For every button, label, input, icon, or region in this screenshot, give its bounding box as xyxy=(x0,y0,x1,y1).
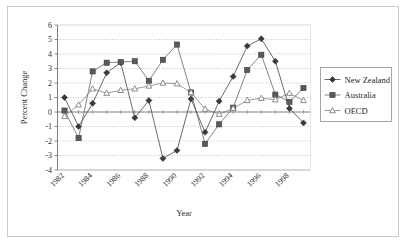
legend-label: New Zealand xyxy=(345,75,391,85)
chart-legend: New ZealandAustraliaOECD xyxy=(321,68,392,122)
y-tick-label: 4 xyxy=(48,50,52,59)
legend-label: Australia xyxy=(345,90,376,100)
data-point-marker xyxy=(160,155,166,161)
data-point-marker xyxy=(272,58,278,64)
data-point-marker xyxy=(217,122,222,127)
series-australia xyxy=(62,42,306,147)
data-point-marker xyxy=(259,52,264,57)
data-point-marker xyxy=(245,67,250,72)
data-point-marker xyxy=(104,60,109,65)
y-tick-label: 6 xyxy=(48,21,52,30)
x-tick-label: 1988 xyxy=(133,171,151,189)
data-point-marker xyxy=(160,57,165,62)
y-tick-label: 1 xyxy=(48,93,52,102)
chart-figure: -4-3-2-101234561982198419861988199019921… xyxy=(0,0,406,244)
line-chart: -4-3-2-101234561982198419861988199019921… xyxy=(0,0,406,244)
data-point-marker xyxy=(202,129,208,135)
data-point-marker xyxy=(132,59,137,64)
data-point-marker xyxy=(90,69,95,74)
data-point-marker xyxy=(287,99,292,104)
data-point-marker xyxy=(62,95,68,101)
data-point-marker xyxy=(118,59,123,64)
data-point-marker xyxy=(90,86,96,91)
tick-labels: -4-3-2-101234561982198419861988199019921… xyxy=(45,21,291,189)
x-axis-title: Year xyxy=(176,208,192,218)
data-point-marker xyxy=(230,73,236,79)
x-tick-label: 1992 xyxy=(189,171,207,189)
data-point-marker xyxy=(160,80,166,85)
y-tick-label: 0 xyxy=(48,108,52,117)
y-tick-label: 2 xyxy=(48,79,52,88)
y-tick-label: -4 xyxy=(45,166,52,175)
y-tick-label: -2 xyxy=(45,137,52,146)
x-tick-label: 1990 xyxy=(161,171,179,189)
data-point-marker xyxy=(301,97,307,102)
data-point-marker xyxy=(174,147,180,153)
x-tick-label: 1994 xyxy=(217,171,235,189)
data-point-marker xyxy=(258,36,264,42)
x-tick-label: 1996 xyxy=(245,171,263,189)
data-point-marker xyxy=(301,85,306,90)
y-tick-label: -3 xyxy=(45,151,52,160)
y-axis-title: Percent Change xyxy=(19,70,29,124)
series-new-zealand xyxy=(62,36,307,162)
data-point-marker xyxy=(287,90,293,95)
series-line xyxy=(65,83,304,116)
data-point-marker xyxy=(76,136,81,141)
x-tick-label: 1998 xyxy=(273,171,291,189)
series-oecd xyxy=(62,80,307,119)
data-point-marker xyxy=(202,141,207,146)
legend-label: OECD xyxy=(345,106,368,116)
x-tick-label: 1984 xyxy=(76,171,94,189)
y-tick-label: -1 xyxy=(45,122,52,131)
data-point-marker xyxy=(330,92,335,97)
series-line xyxy=(65,45,304,144)
y-tick-label: 5 xyxy=(48,35,52,44)
x-tick-label: 1986 xyxy=(104,171,122,189)
data-point-marker xyxy=(174,42,179,47)
data-point-marker xyxy=(216,98,222,104)
data-series xyxy=(62,36,307,162)
y-tick-label: 3 xyxy=(48,64,52,73)
data-point-marker xyxy=(244,43,250,49)
data-point-marker xyxy=(90,100,96,106)
data-point-marker xyxy=(104,70,110,76)
